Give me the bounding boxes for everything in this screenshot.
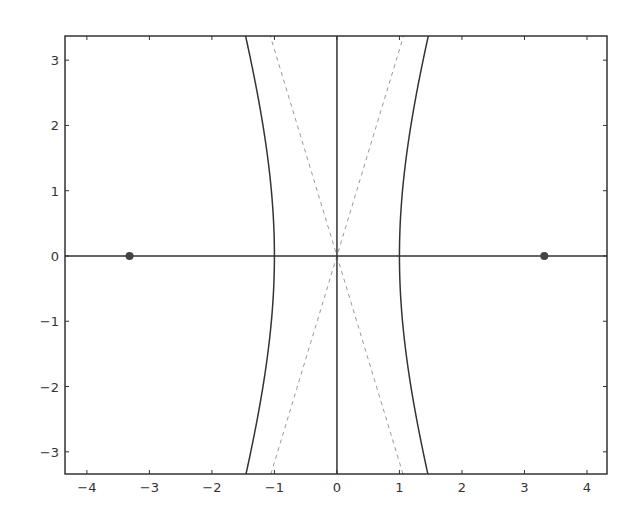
hyperbola-left-branch [246,36,275,474]
x-tick-label: 3 [520,480,528,495]
axes-frame [65,36,607,474]
y-tick-label: 0 [51,249,59,264]
focus-right-point [540,252,548,260]
y-tick-label: 1 [51,184,59,199]
hyperbola-chart: −4−3−2−101234−3−2−10123 [0,0,638,518]
x-tick-label: −3 [140,480,159,495]
y-tick-label: 2 [51,118,59,133]
y-tick-label: −2 [40,380,59,395]
x-tick-label: −1 [265,480,284,495]
x-tick-label: −4 [77,480,96,495]
x-tick-label: 4 [583,480,591,495]
hyperbola-right-branch [399,36,428,474]
x-tick-label: −2 [202,480,221,495]
x-tick-label: 0 [333,480,341,495]
y-tick-label: 3 [51,53,59,68]
plot-area: −4−3−2−101234−3−2−10123 [40,36,607,495]
plot-content [65,36,607,474]
x-tick-label: 2 [458,480,466,495]
y-tick-label: −3 [40,445,59,460]
focus-left-point [126,252,134,260]
x-tick-label: 1 [395,480,403,495]
y-tick-label: −1 [40,314,59,329]
